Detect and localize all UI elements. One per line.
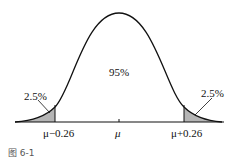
left-tail-label: 2.5%: [24, 91, 47, 102]
right-leader-line: [195, 98, 212, 115]
right-tail-region: [184, 107, 222, 122]
center-percent-label: 95%: [109, 67, 129, 78]
figure-caption: 图 6-1: [8, 146, 35, 159]
normal-curve-plot: [0, 0, 239, 164]
right-tail-label: 2.5%: [201, 88, 224, 99]
tick-label-mid: μ: [115, 128, 121, 139]
left-tail-region: [15, 107, 55, 122]
tick-label-right: μ+0.26: [171, 128, 202, 139]
tick-label-left: μ−0.26: [43, 128, 74, 139]
